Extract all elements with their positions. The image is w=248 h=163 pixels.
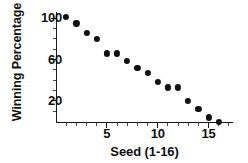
y-axis-minor-tick	[53, 28, 57, 29]
x-axis-minor-tick	[228, 123, 229, 127]
x-axis-line	[56, 122, 233, 123]
x-axis-minor-tick	[66, 123, 67, 127]
y-axis-tick-label: 20	[48, 94, 62, 107]
data-point	[195, 106, 201, 112]
x-axis-tick-label: 10	[151, 127, 165, 140]
data-point	[134, 65, 140, 71]
y-axis-title: Winning Percentage	[10, 2, 24, 122]
data-point	[144, 70, 150, 76]
x-axis-minor-tick	[188, 123, 189, 127]
x-axis-tick-label: 5	[103, 127, 110, 140]
chart-container: 2060100 51015 Winning Percentage Seed (1…	[0, 0, 248, 163]
data-point	[175, 84, 181, 90]
x-axis-minor-tick	[198, 123, 199, 127]
data-point	[205, 114, 211, 120]
y-axis-minor-tick	[53, 69, 57, 70]
plot-area: 2060100 51015 Winning Percentage Seed (1…	[0, 0, 248, 163]
data-point	[114, 50, 120, 56]
data-point	[83, 30, 89, 36]
x-axis-title: Seed (1-16)	[56, 144, 233, 159]
y-axis-minor-tick	[53, 80, 57, 81]
x-axis-minor-tick	[117, 123, 118, 127]
y-axis-minor-tick	[53, 111, 57, 112]
data-point	[124, 57, 130, 63]
x-axis-tick-label: 15	[202, 127, 216, 140]
y-axis-tick-label: 60	[48, 53, 62, 66]
data-point	[94, 36, 100, 42]
data-point	[155, 79, 161, 85]
data-point	[104, 50, 110, 56]
x-axis-minor-tick	[86, 123, 87, 127]
data-point	[185, 98, 191, 104]
x-axis-minor-tick	[127, 123, 128, 127]
data-point	[73, 20, 79, 26]
x-axis-minor-tick	[147, 123, 148, 127]
x-axis-minor-tick	[96, 123, 97, 127]
x-axis-minor-tick	[137, 123, 138, 127]
data-point	[165, 84, 171, 90]
y-axis-minor-tick	[53, 90, 57, 91]
data-point	[63, 14, 69, 20]
x-axis-minor-tick	[167, 123, 168, 127]
y-axis-minor-tick	[53, 49, 57, 50]
x-axis-minor-tick	[178, 123, 179, 127]
x-axis-minor-tick	[76, 123, 77, 127]
data-point	[216, 118, 222, 124]
y-axis-tick-label: 100	[41, 11, 62, 24]
y-axis-minor-tick	[53, 38, 57, 39]
